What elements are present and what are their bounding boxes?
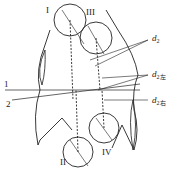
roller-label-IV: IV bbox=[102, 148, 112, 157]
label-d2-left: d2左 bbox=[152, 70, 166, 80]
line-label-1: 1 bbox=[4, 80, 9, 89]
label-d2-right: d2右 bbox=[152, 96, 166, 106]
hatch-left bbox=[40, 50, 46, 85]
line-label-2: 2 bbox=[6, 100, 11, 109]
hatch-right bbox=[131, 100, 136, 150]
thread-profile-outline bbox=[35, 30, 72, 145]
label-d2: d2 bbox=[152, 34, 160, 44]
roller-label-II: II bbox=[60, 158, 66, 167]
thread-measurement-diagram bbox=[0, 0, 180, 179]
roller-label-I: I bbox=[46, 6, 49, 15]
roller-label-III: III bbox=[86, 8, 95, 17]
